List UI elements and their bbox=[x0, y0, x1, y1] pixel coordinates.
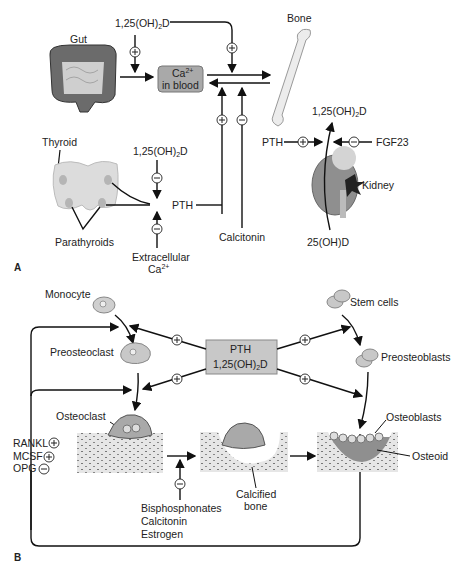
minus-icon bbox=[152, 224, 162, 234]
thyroid-label: Thyroid bbox=[42, 136, 77, 148]
mcsf-label: MCSF bbox=[13, 450, 43, 462]
pth-vitd-box: PTH 1,25(OH)2D bbox=[206, 340, 277, 374]
osteoclast-label: Osteoclast bbox=[56, 410, 106, 422]
plus-icon bbox=[300, 335, 310, 345]
kidney-pth-label: PTH bbox=[262, 136, 283, 148]
minus-icon bbox=[175, 479, 185, 489]
minus-icon bbox=[39, 464, 49, 474]
preosteoblasts-icon bbox=[356, 349, 378, 367]
pth-box-label: PTH bbox=[230, 343, 251, 355]
ca-in-blood-box: Ca2+ in blood bbox=[158, 66, 203, 92]
panel-b: Monocyte Preosteoclast PTH 1,25(OH)2D St… bbox=[13, 288, 450, 563]
minus-icon bbox=[237, 115, 247, 125]
vitd-box-label: 1,25(OH)2D bbox=[213, 358, 268, 371]
plus-icon bbox=[298, 137, 308, 147]
vitd-to-bone-arrow bbox=[170, 22, 232, 72]
fgf23-label: FGF23 bbox=[376, 136, 409, 148]
plus-icon bbox=[44, 452, 54, 462]
vitd-top-label: 1,25(OH)2D bbox=[115, 17, 170, 30]
bisphosphonates-label: Bisphosphonates bbox=[141, 502, 222, 514]
plus-icon bbox=[227, 43, 237, 53]
panel-b-label: B bbox=[14, 552, 21, 563]
in-blood-label: in blood bbox=[162, 79, 199, 91]
bone-icon bbox=[272, 29, 310, 126]
calcified-label: Calcified bbox=[236, 488, 276, 500]
kidney-vitd-label: 1,25(OH)2D bbox=[312, 105, 367, 118]
opg-label: OPG bbox=[13, 462, 36, 474]
estrogen-label: Estrogen bbox=[141, 528, 183, 540]
parathyroids-label: Parathyroids bbox=[55, 236, 114, 248]
resorbing-bone-icon bbox=[77, 433, 163, 473]
gut-icon bbox=[50, 45, 116, 112]
minus-icon bbox=[152, 173, 162, 183]
pth-label: PTH bbox=[172, 199, 193, 211]
plus-icon bbox=[130, 47, 140, 57]
thyroid-icon bbox=[53, 161, 118, 210]
25ohd-label: 25(OH)D bbox=[307, 236, 349, 248]
monocyte-label: Monocyte bbox=[45, 288, 91, 300]
stem-cells-icon bbox=[327, 290, 350, 308]
extracellular-ca-label: Ca2+ bbox=[148, 263, 169, 275]
preosteoblasts-label: Preosteoblasts bbox=[381, 351, 450, 363]
calcitonin-label: Calcitonin bbox=[219, 231, 265, 243]
rankl-label: RANKL bbox=[13, 437, 48, 449]
calcitonin-label: Calcitonin bbox=[141, 515, 187, 527]
osteoblasts-label: Osteoblasts bbox=[386, 411, 441, 423]
kidney-label: Kidney bbox=[362, 179, 395, 191]
gut-label: Gut bbox=[70, 33, 87, 45]
stem-cells-label: Stem cells bbox=[350, 296, 398, 308]
plus-icon bbox=[49, 438, 59, 448]
plus-icon bbox=[217, 115, 227, 125]
extracellular-label: Extracellular bbox=[132, 251, 190, 263]
plus-icon bbox=[172, 374, 182, 384]
plus-icon bbox=[300, 374, 310, 384]
osteoid-label: Osteoid bbox=[412, 450, 448, 462]
vitd-pth-label: 1,25(OH)2D bbox=[133, 145, 188, 158]
panel-a: Gut 1,25(OH)2D Ca2+ in blood Bone Calcit… bbox=[14, 12, 409, 275]
bone-label-b: bone bbox=[244, 500, 268, 512]
minus-icon bbox=[349, 137, 359, 147]
bone-label: Bone bbox=[287, 12, 312, 24]
panel-a-label: A bbox=[14, 262, 21, 273]
preosteoclast-label: Preosteoclast bbox=[50, 346, 114, 358]
kidney-icon bbox=[312, 146, 365, 218]
calcium-regulation-diagram: Gut 1,25(OH)2D Ca2+ in blood Bone Calcit… bbox=[0, 0, 460, 573]
plus-icon bbox=[172, 335, 182, 345]
